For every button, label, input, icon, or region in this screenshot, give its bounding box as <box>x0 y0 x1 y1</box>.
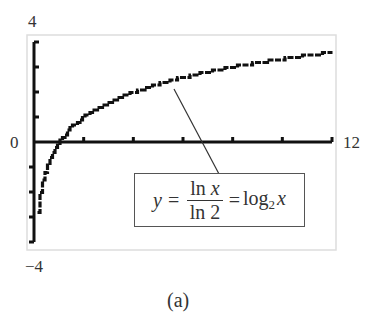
formula-rhs: log2x <box>243 187 286 213</box>
fraction-numerator: ln x <box>187 178 222 201</box>
leader-line <box>174 89 219 174</box>
fraction-denominator: ln 2 <box>190 201 221 223</box>
formula-lhs: y <box>153 189 162 212</box>
y-zero-label: 0 <box>10 134 19 151</box>
figure-caption: (a) <box>167 290 189 310</box>
y-min-label: −4 <box>25 258 43 275</box>
formula-eq1: = <box>168 189 179 212</box>
formula-annotation: y = ln x ln 2 = log2x <box>134 173 305 227</box>
formula-fraction: ln x ln 2 <box>187 178 222 223</box>
log-plot <box>0 0 367 318</box>
formula-eq2: = <box>229 189 240 212</box>
x-max-label: 12 <box>343 134 360 151</box>
y-max-label: 4 <box>28 13 37 30</box>
